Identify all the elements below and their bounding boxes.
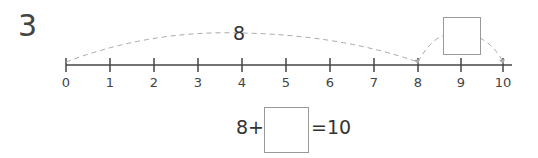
equation-right: =10 [311, 116, 351, 138]
tick-label-5: 5 [282, 75, 290, 90]
tick-label-4: 4 [238, 75, 246, 90]
jump-answer-box[interactable] [443, 17, 481, 55]
tick-label-0: 0 [62, 75, 70, 90]
tick-label-8: 8 [414, 75, 422, 90]
tick-label-2: 2 [150, 75, 158, 90]
arc-label: 8 [233, 22, 245, 44]
tick-label-1: 1 [106, 75, 114, 90]
equation-answer-box[interactable] [264, 107, 309, 153]
equation-left: 8+ [236, 116, 264, 138]
tick-label-6: 6 [326, 75, 334, 90]
tick-label-10: 10 [495, 75, 512, 90]
tick-label-3: 3 [194, 75, 202, 90]
tick-label-9: 9 [457, 75, 465, 90]
tick-label-7: 7 [370, 75, 378, 90]
